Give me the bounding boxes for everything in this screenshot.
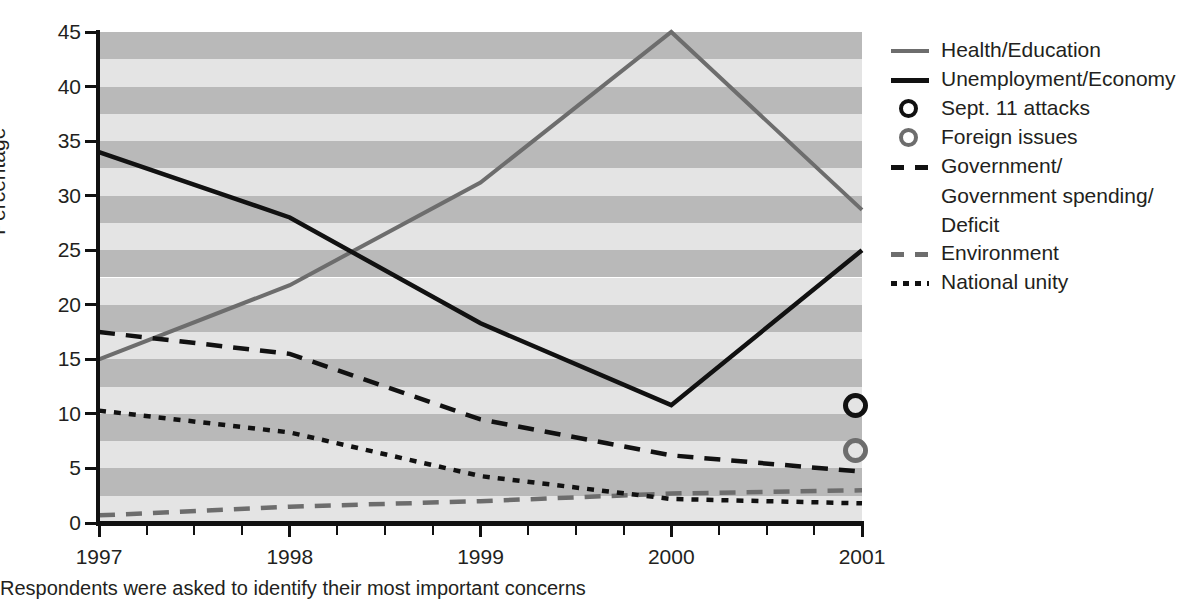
legend-item: Foreign issues <box>890 123 1182 151</box>
y-axis-tick <box>85 140 96 143</box>
legend-item-label-continuation: Deficit <box>941 210 1182 239</box>
line-marker-icon <box>891 280 929 287</box>
legend-item: Government/ <box>890 152 1182 180</box>
y-axis-tick-label: 45 <box>58 21 81 42</box>
x-axis-minor-tick <box>193 526 195 535</box>
x-axis-tick-label: 1999 <box>457 545 504 569</box>
figure-caption: Respondents were asked to identify their… <box>0 576 586 600</box>
y-axis-tick-label: 0 <box>69 512 81 533</box>
legend-item-label: Unemployment/Economy <box>941 65 1176 93</box>
x-axis-tick <box>670 526 673 537</box>
legend-swatch-icon <box>890 239 930 265</box>
chart-legend: Health/EducationUnemployment/EconomySept… <box>890 36 1182 297</box>
x-axis-minor-tick <box>766 526 768 535</box>
x-axis-tick <box>861 526 864 537</box>
legend-swatch-icon <box>890 94 930 120</box>
legend-item: Unemployment/Economy <box>890 65 1182 93</box>
y-axis-tick <box>85 85 96 88</box>
legend-swatch-icon <box>890 123 930 149</box>
legend-item: National unity <box>890 268 1182 296</box>
y-axis-tick <box>85 31 96 34</box>
x-axis-minor-tick <box>146 526 148 535</box>
line-marker-icon <box>891 164 929 171</box>
x-axis-minor-tick <box>336 526 338 535</box>
legend-swatch-icon <box>890 268 930 294</box>
x-axis-minor-tick <box>718 526 720 535</box>
x-axis-minor-tick <box>384 526 386 535</box>
y-axis-tick-label: 15 <box>58 348 81 369</box>
legend-item: Health/Education <box>890 36 1182 64</box>
x-axis-tick <box>288 526 291 537</box>
x-axis-minor-tick <box>575 526 577 535</box>
y-axis-tick-label: 25 <box>58 239 81 260</box>
y-axis-tick-label: 40 <box>58 76 81 97</box>
plot-area <box>99 32 862 523</box>
y-axis-tick-label: 5 <box>69 457 81 478</box>
legend-item-label: Government/ <box>941 152 1062 180</box>
y-axis-tick <box>85 358 96 361</box>
y-axis-tick <box>85 522 96 525</box>
y-axis: 051015202530354045 <box>0 0 96 597</box>
y-axis-tick-label: 35 <box>58 130 81 151</box>
legend-swatch-icon <box>890 65 930 91</box>
series-line <box>99 332 862 472</box>
y-axis-tick-label: 20 <box>58 294 81 315</box>
x-axis-minor-tick <box>623 526 625 535</box>
line-marker-icon <box>891 251 929 258</box>
series-line <box>99 490 862 515</box>
y-axis-tick <box>85 194 96 197</box>
x-axis-tick <box>479 526 482 537</box>
x-axis-tick <box>98 526 101 537</box>
x-axis-minor-tick <box>432 526 434 535</box>
legend-item-label: Sept. 11 attacks <box>941 94 1090 122</box>
series-line <box>99 411 862 504</box>
x-axis-tick-label: 1997 <box>76 545 123 569</box>
y-axis-tick <box>85 467 96 470</box>
data-point-marker <box>843 438 868 463</box>
y-axis-tick-label: 10 <box>58 403 81 424</box>
x-axis-tick-label: 1998 <box>266 545 313 569</box>
x-axis-tick-label: 2000 <box>648 545 695 569</box>
y-axis-tick-label: 30 <box>58 185 81 206</box>
legend-swatch-icon <box>890 36 930 62</box>
legend-item: Environment <box>890 239 1182 267</box>
data-point-marker <box>843 393 868 418</box>
legend-swatch-icon <box>890 152 930 178</box>
line-marker-icon <box>891 48 929 54</box>
y-axis-tick <box>85 412 96 415</box>
x-axis-minor-tick <box>813 526 815 535</box>
legend-item-label: Environment <box>941 239 1059 267</box>
x-axis-tick-label: 2001 <box>839 545 886 569</box>
series-line <box>99 152 862 405</box>
y-axis-line <box>96 30 100 525</box>
y-axis-tick <box>85 249 96 252</box>
series-line <box>99 32 862 359</box>
y-axis-tick <box>85 303 96 306</box>
y-axis-title: Percentage <box>0 128 10 235</box>
plot-series-layer <box>99 32 862 523</box>
line-marker-icon <box>891 77 929 84</box>
x-axis-minor-tick <box>241 526 243 535</box>
legend-item-label: Foreign issues <box>941 123 1078 151</box>
legend-item: Sept. 11 attacks <box>890 94 1182 122</box>
legend-item-label-continuation: Government spending/ <box>941 181 1182 210</box>
ring-marker-icon <box>899 128 918 147</box>
legend-item-label: National unity <box>941 268 1068 296</box>
x-axis-minor-tick <box>527 526 529 535</box>
ring-marker-icon <box>899 99 918 118</box>
legend-item-label: Health/Education <box>941 36 1101 64</box>
